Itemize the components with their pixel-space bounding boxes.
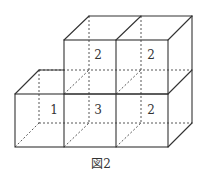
- count-labels: 2 2 1 3 2: [50, 48, 155, 117]
- label-bottom-left: 1: [50, 103, 58, 117]
- hidden-edges: [15, 16, 192, 147]
- label-bottom-middle: 3: [94, 103, 102, 117]
- label-top-middle: 2: [94, 48, 102, 62]
- visible-edges: [15, 16, 192, 147]
- cube-stack-diagram: 2 2 1 3 2 図2: [0, 0, 200, 175]
- label-bottom-right: 2: [147, 103, 155, 117]
- label-top-right: 2: [147, 48, 155, 62]
- figure-caption: 図2: [91, 157, 111, 171]
